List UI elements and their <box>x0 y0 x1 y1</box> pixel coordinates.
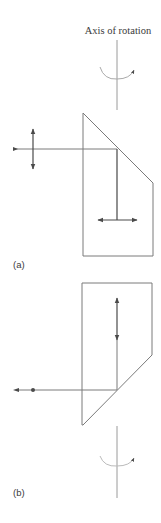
panel-a <box>13 40 153 256</box>
beam-direction-arrow-icon <box>13 147 18 151</box>
beam-direction-arrow-icon-b <box>13 388 19 392</box>
panel-label-a: (a) <box>13 259 25 270</box>
axis-of-rotation-label: Axis of rotation <box>77 25 159 36</box>
prism-a <box>83 113 153 256</box>
panel-b <box>13 283 152 498</box>
panel-label-b: (b) <box>13 487 25 498</box>
out-of-plane-polarization-dot-icon <box>31 388 35 392</box>
